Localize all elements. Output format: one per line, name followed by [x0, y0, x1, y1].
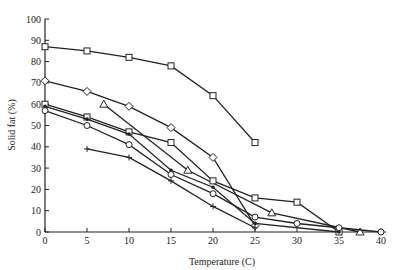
- axes: 01020304050607080901000510152025303540: [26, 14, 386, 247]
- dot-marker: [253, 222, 257, 226]
- y-tick-label: 40: [31, 141, 41, 152]
- dot-marker: [85, 117, 89, 121]
- y-tick-label: 0: [36, 227, 41, 238]
- diamond-marker: [125, 102, 133, 110]
- x-tick-label: 25: [250, 235, 260, 246]
- series-line: [42, 44, 258, 146]
- circle-marker: [210, 191, 216, 197]
- series-line: [41, 77, 259, 230]
- square-marker: [210, 178, 216, 184]
- square-marker: [252, 195, 258, 201]
- x-tick-label: 10: [124, 235, 134, 246]
- circle-marker: [84, 123, 90, 129]
- line-path: [45, 47, 255, 143]
- square-marker: [84, 48, 90, 54]
- line-path: [45, 81, 255, 226]
- x-tick-label: 35: [334, 235, 344, 246]
- series-line: [42, 101, 342, 235]
- square-marker: [168, 63, 174, 69]
- y-tick-label: 70: [31, 77, 41, 88]
- square-marker: [168, 140, 174, 146]
- line-path: [104, 104, 360, 232]
- series-line: [100, 100, 364, 235]
- dot-marker: [127, 132, 131, 136]
- chart: 01020304050607080901000510152025303540 T…: [0, 0, 400, 270]
- x-tick-label: 40: [376, 235, 386, 246]
- circle-marker: [168, 171, 174, 177]
- x-tick-label: 0: [43, 235, 48, 246]
- x-tick-label: 30: [292, 235, 302, 246]
- x-tick-label: 5: [85, 235, 90, 246]
- series-line: [42, 108, 384, 235]
- diamond-marker: [167, 124, 175, 132]
- y-tick-label: 30: [31, 163, 41, 174]
- y-tick-label: 90: [31, 35, 41, 46]
- circle-marker: [42, 108, 48, 114]
- y-tick-label: 50: [31, 120, 41, 131]
- x-tick-label: 15: [166, 235, 176, 246]
- y-axis-label: Solid fat (%): [6, 99, 18, 151]
- square-marker: [126, 54, 132, 60]
- diamond-marker: [83, 87, 91, 95]
- square-marker: [42, 44, 48, 50]
- x-axis-label: Temperature (C): [189, 256, 255, 268]
- circle-marker: [336, 225, 342, 231]
- y-tick-label: 60: [31, 99, 41, 110]
- dot-marker: [211, 185, 215, 189]
- y-tick-label: 10: [31, 205, 41, 216]
- circle-marker: [378, 229, 384, 235]
- y-tick-label: 80: [31, 56, 41, 67]
- line-path: [45, 111, 381, 232]
- circle-marker: [252, 214, 258, 220]
- triangle-marker: [268, 209, 276, 216]
- square-marker: [210, 93, 216, 99]
- y-tick-label: 100: [26, 14, 41, 25]
- square-marker: [252, 140, 258, 146]
- diamond-marker: [41, 77, 49, 85]
- square-marker: [294, 199, 300, 205]
- series-lines: [41, 44, 384, 235]
- x-tick-label: 20: [208, 235, 218, 246]
- circle-marker: [294, 220, 300, 226]
- y-tick-label: 20: [31, 184, 41, 195]
- triangle-marker: [100, 100, 108, 107]
- diamond-marker: [209, 153, 217, 161]
- circle-marker: [126, 142, 132, 148]
